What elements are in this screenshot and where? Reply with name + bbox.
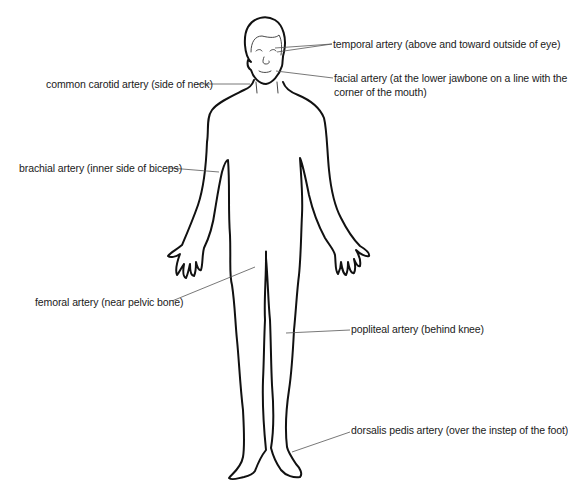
carotid-artery-label: common carotid artery (side of neck) (46, 78, 213, 91)
dorsalis-leader (292, 432, 350, 452)
brachial-artery-label: brachial artery (inner side of biceps) (19, 162, 182, 175)
dorsalis-pedis-artery-label: dorsalis pedis artery (over the instep o… (351, 424, 568, 437)
body-outline (168, 80, 369, 479)
facial-artery-label-line2: corner of the mouth) (334, 86, 427, 99)
popliteal-leader (286, 330, 350, 333)
facial-leader (276, 71, 333, 78)
femoral-artery-label: femoral artery (near pelvic bone) (35, 296, 183, 309)
temporal-leader-1 (275, 44, 332, 48)
popliteal-artery-label: popliteal artery (behind knee) (351, 323, 484, 336)
femoral-leader (172, 267, 255, 301)
temporal-artery-label: temporal artery (above and toward outsid… (333, 38, 560, 51)
facial-artery-label-line1: facial artery (at the lower jawbone on a… (334, 72, 567, 85)
